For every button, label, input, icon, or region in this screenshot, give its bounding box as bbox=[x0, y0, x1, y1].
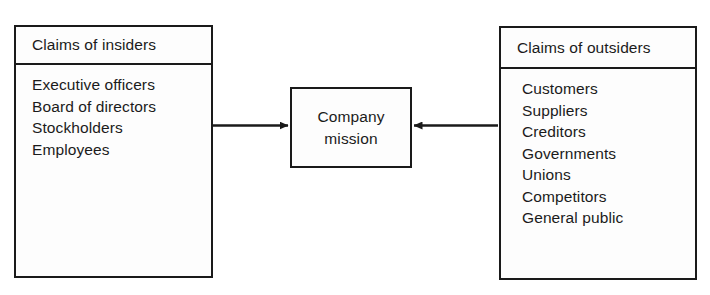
insiders-box-header: Claims of insiders bbox=[16, 27, 211, 65]
list-item: Suppliers bbox=[522, 100, 695, 122]
list-item: Board of directors bbox=[32, 96, 211, 118]
list-item: Creditors bbox=[522, 121, 695, 143]
list-item: Stockholders bbox=[32, 117, 211, 139]
diagram-canvas: Claims of insiders Executive officers Bo… bbox=[0, 0, 710, 295]
company-mission-line1: Company bbox=[317, 108, 384, 125]
list-item: Competitors bbox=[522, 186, 695, 208]
company-mission-line2: mission bbox=[324, 130, 377, 147]
outsiders-box: Claims of outsiders Customers Suppliers … bbox=[499, 26, 697, 280]
list-item: Executive officers bbox=[32, 74, 211, 96]
insiders-box: Claims of insiders Executive officers Bo… bbox=[14, 25, 213, 278]
list-item: General public bbox=[522, 207, 695, 229]
insiders-box-body: Executive officers Board of directors St… bbox=[16, 65, 211, 276]
insiders-box-header-label: Claims of insiders bbox=[32, 37, 156, 53]
outsiders-box-body: Customers Suppliers Creditors Government… bbox=[501, 69, 695, 278]
outsiders-box-header: Claims of outsiders bbox=[501, 28, 695, 69]
outsiders-box-header-label: Claims of outsiders bbox=[517, 40, 651, 56]
company-mission-label: Company mission bbox=[317, 106, 384, 150]
list-item: Governments bbox=[522, 143, 695, 165]
list-item: Employees bbox=[32, 139, 211, 161]
outsiders-list: Customers Suppliers Creditors Government… bbox=[522, 78, 695, 229]
list-item: Unions bbox=[522, 164, 695, 186]
list-item: Customers bbox=[522, 78, 695, 100]
insiders-list: Executive officers Board of directors St… bbox=[32, 74, 211, 160]
company-mission-box: Company mission bbox=[290, 87, 412, 168]
